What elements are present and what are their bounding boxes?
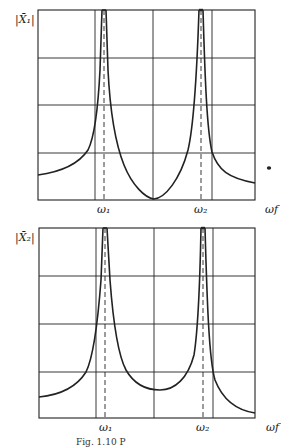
bottom-xtick-omegaf: ωf (266, 421, 279, 434)
top-xtick-omega2: ω₂ (194, 203, 207, 216)
top-xtick-omegaf: ωf (265, 203, 278, 216)
top-response-curve (38, 10, 255, 199)
bottom-ylabel: |X̄₂| (15, 231, 35, 244)
response-diagram (0, 0, 291, 448)
bottom-xtick-omega2: ω₂ (196, 421, 209, 434)
top-ylabel: |X̄₁| (15, 13, 35, 26)
figure-caption: Fig. 1.10 P (76, 437, 126, 447)
top-stray-mark (267, 166, 271, 170)
bottom-response-curve (39, 228, 255, 413)
bottom-xtick-omega1: ω₁ (99, 421, 112, 434)
top-xtick-omega1: ω₁ (97, 203, 110, 216)
top-panel (38, 10, 255, 200)
bottom-panel (39, 228, 255, 418)
bottom-frame (39, 228, 255, 418)
